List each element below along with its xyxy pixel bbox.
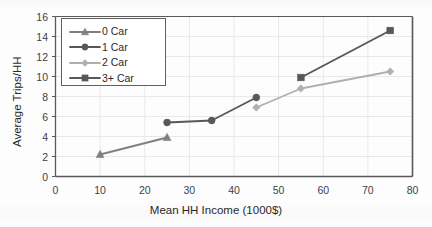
legend-item-2-car[interactable]: 2 Car <box>62 54 167 71</box>
legend-item-label: 1 Car <box>102 42 128 53</box>
chart-container: 0246810121416 01020304050607080 Mean HH … <box>0 0 432 227</box>
y-tick-label: 8 <box>20 92 48 103</box>
x-tick-label: 20 <box>125 185 165 196</box>
y-tick-label: 14 <box>20 32 48 43</box>
x-axis-title: Mean HH Income (1000$) <box>0 205 432 217</box>
x-tick-label: 40 <box>214 185 254 196</box>
legend-item-3-car[interactable]: 3+ Car <box>62 70 167 87</box>
legend-item-0-car[interactable]: 0 Car <box>62 23 167 40</box>
y-tick-label: 10 <box>20 72 48 83</box>
x-tick-label: 50 <box>259 185 299 196</box>
legend-item-label: 2 Car <box>102 57 128 68</box>
legend-marker-square-icon <box>68 71 102 85</box>
y-tick-label: 2 <box>20 152 48 163</box>
y-tick-label: 4 <box>20 132 48 143</box>
legend-item-label: 3+ Car <box>102 73 134 84</box>
y-tick-label: 6 <box>20 112 48 123</box>
legend-marker-diamond-icon <box>68 56 102 70</box>
legend-marker-triangle-icon <box>68 25 102 39</box>
legend-marker-circle-icon <box>68 40 102 54</box>
y-tick-label: 12 <box>20 52 48 63</box>
chart-legend: 0 Car1 Car2 Car3+ Car <box>61 18 166 86</box>
x-tick-label: 0 <box>36 185 76 196</box>
y-axis-title: Average Trips/HH <box>12 42 24 162</box>
x-tick-label: 30 <box>169 185 209 196</box>
chart-series-1-car <box>164 94 260 126</box>
y-tick-label: 16 <box>20 12 48 23</box>
x-tick-label: 10 <box>80 185 120 196</box>
legend-item-label: 0 Car <box>102 26 128 37</box>
x-tick-label: 80 <box>393 185 432 196</box>
legend-item-1-car[interactable]: 1 Car <box>62 39 167 56</box>
x-tick-label: 60 <box>303 185 343 196</box>
x-tick-label: 70 <box>348 185 388 196</box>
y-tick-label: 0 <box>20 172 48 183</box>
